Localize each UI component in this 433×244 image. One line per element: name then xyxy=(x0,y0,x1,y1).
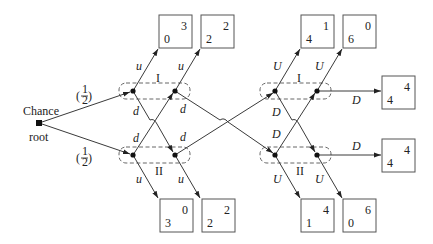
svg-text:4: 4 xyxy=(306,32,312,46)
action-label-u: u xyxy=(178,59,184,73)
svg-text:2: 2 xyxy=(206,32,212,46)
payoff-box-top-left-1: 0 3 xyxy=(159,15,192,48)
node-left-lower-a xyxy=(130,152,135,157)
payoff-box-right-lower: 4 4 xyxy=(382,139,415,172)
action-label-d: d xyxy=(180,130,187,144)
info-set-left-upper xyxy=(119,83,190,99)
edge-left-lower-b-d xyxy=(175,93,273,155)
svg-text:4: 4 xyxy=(387,93,393,107)
svg-text:0: 0 xyxy=(164,32,170,46)
action-label-U: U xyxy=(315,59,325,73)
payoff-box-bottom-left-2: 2 2 xyxy=(202,199,235,232)
svg-text:0: 0 xyxy=(348,216,354,230)
prob-label-lower: ( 1 2 ) xyxy=(76,144,92,169)
action-label-U: U xyxy=(315,172,325,186)
node-right-lower-b xyxy=(314,152,319,157)
svg-text:3: 3 xyxy=(165,216,171,230)
node-right-lower-a xyxy=(272,152,277,157)
payoff-box-bottom-right-2: 0 6 xyxy=(343,199,376,232)
action-label-D: D xyxy=(271,127,281,141)
edge-left-lower-a-d xyxy=(133,93,173,155)
action-label-d: d xyxy=(133,104,140,118)
svg-text:4: 4 xyxy=(323,203,329,217)
game-tree-diagram: Chance root ( 1 2 ) ( 1 2 ) I II I II xyxy=(0,0,433,244)
info-set-label-right-lower: II xyxy=(296,164,304,178)
payoff-box-top-right-2: 6 0 xyxy=(343,15,376,48)
action-label-D: D xyxy=(351,93,361,107)
chance-root-node xyxy=(36,120,42,126)
svg-text:4: 4 xyxy=(387,156,393,170)
svg-text:2: 2 xyxy=(207,216,213,230)
svg-text:(: ( xyxy=(76,89,80,103)
action-label-d: d xyxy=(180,102,187,116)
action-label-D: D xyxy=(271,105,281,119)
svg-text:): ) xyxy=(88,89,92,103)
svg-text:0: 0 xyxy=(182,203,188,217)
root-label: root xyxy=(29,130,49,144)
payoff-box-right-upper: 4 4 xyxy=(382,76,415,109)
action-label-U: U xyxy=(273,172,283,186)
node-right-upper-a xyxy=(272,88,277,93)
edge-left-upper-b-d xyxy=(175,91,273,153)
svg-text:1: 1 xyxy=(306,216,312,230)
action-label-u: u xyxy=(136,59,142,73)
info-set-left-lower xyxy=(119,147,190,163)
prob-label-upper: ( 1 2 ) xyxy=(76,82,92,107)
svg-text:4: 4 xyxy=(404,143,410,157)
svg-text:1: 1 xyxy=(323,19,329,33)
node-left-upper-b xyxy=(172,88,177,93)
action-label-d: d xyxy=(133,131,140,145)
svg-text:4: 4 xyxy=(404,80,410,94)
svg-text:6: 6 xyxy=(348,32,354,46)
svg-text:): ) xyxy=(88,151,92,165)
chance-label: Chance xyxy=(23,104,59,118)
action-label-D: D xyxy=(351,139,361,153)
edge-right-lower-a-D xyxy=(275,93,315,155)
payoff-box-bottom-left-1: 3 0 xyxy=(160,199,193,232)
svg-text:6: 6 xyxy=(365,203,371,217)
action-label-U: U xyxy=(273,59,283,73)
svg-text:(: ( xyxy=(76,151,80,165)
svg-text:0: 0 xyxy=(365,19,371,33)
node-left-upper-a xyxy=(130,88,135,93)
edge-left-upper-a-d xyxy=(133,91,173,152)
svg-text:3: 3 xyxy=(181,19,187,33)
info-set-label-left-lower: II xyxy=(155,164,163,178)
info-set-label-right-upper: I xyxy=(297,71,301,85)
payoff-box-top-left-2: 2 2 xyxy=(201,15,234,48)
svg-text:2: 2 xyxy=(224,203,230,217)
payoff-box-bottom-right-1: 1 4 xyxy=(301,199,334,232)
action-label-u: u xyxy=(178,172,184,186)
svg-text:2: 2 xyxy=(223,19,229,33)
action-label-u: u xyxy=(136,172,142,186)
edge-right-upper-a-D xyxy=(275,91,315,152)
node-right-upper-b xyxy=(314,88,319,93)
info-set-label-left-upper: I xyxy=(156,71,160,85)
payoff-box-top-right-1: 4 1 xyxy=(301,15,334,48)
node-left-lower-b xyxy=(172,152,177,157)
